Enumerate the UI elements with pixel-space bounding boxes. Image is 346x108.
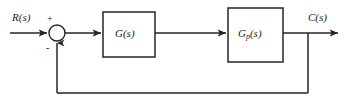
block-diagram-canvas: R(s) + - G(s) Gp(s) C(s) <box>0 0 346 108</box>
block-plant-label-argument: (s) <box>250 27 262 39</box>
summing-junction-minus-sign: - <box>46 43 49 53</box>
block-plant-label: Gp(s) <box>238 28 262 41</box>
output-signal-label: C(s) <box>308 12 327 23</box>
summing-junction-plus-sign: + <box>47 14 53 24</box>
input-signal-label: R(s) <box>12 12 30 23</box>
block-plant-label-main: G <box>238 27 246 39</box>
block-controller-label: G(s) <box>115 28 135 39</box>
summing-junction-circle <box>49 25 65 41</box>
